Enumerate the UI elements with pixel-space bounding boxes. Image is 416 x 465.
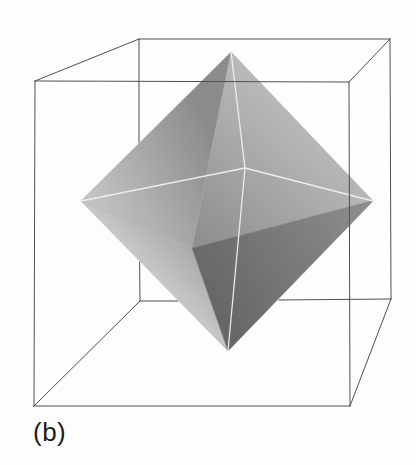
figure-label: (b) — [33, 417, 66, 447]
figure-canvas: (b) — [0, 0, 416, 465]
figure-octahedron-in-cube: (b) — [0, 0, 416, 465]
